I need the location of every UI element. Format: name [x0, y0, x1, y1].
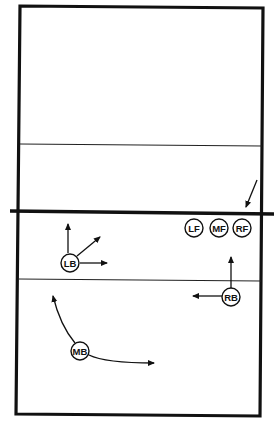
attack-line-opponent	[20, 144, 262, 146]
lb-arrow-diagonal	[77, 237, 100, 256]
net-line	[10, 211, 274, 214]
attack-line-own	[18, 279, 261, 281]
player-lf: LF	[185, 219, 203, 237]
player-mb: MB	[71, 342, 89, 360]
mb-curve-up	[53, 296, 75, 343]
mb-curve-right	[89, 355, 154, 363]
player-lb-label: LB	[64, 258, 77, 269]
player-rb: RB	[222, 288, 240, 306]
player-mb-label: MB	[73, 346, 88, 357]
player-rb-label: RB	[224, 292, 238, 303]
player-lf-label: LF	[188, 223, 200, 234]
volleyball-court-diagram: LF MF RF LB RB MB	[0, 0, 277, 427]
player-lb: LB	[61, 254, 79, 272]
player-rf-label: RF	[236, 223, 249, 234]
player-mf-label: MF	[212, 223, 226, 234]
ball-arrow	[246, 180, 257, 207]
player-rf: RF	[233, 219, 251, 237]
player-mf: MF	[210, 219, 228, 237]
